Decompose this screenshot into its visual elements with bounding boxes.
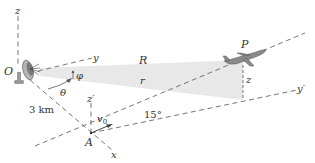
y-axis-label: y — [92, 52, 99, 63]
y-prime-label: y′ — [296, 83, 306, 94]
velocity-label: v0 — [97, 113, 107, 126]
plane-label: P — [240, 38, 249, 51]
y-prime-axis — [91, 90, 297, 133]
point-a — [90, 132, 92, 134]
distance-label: 3 km — [29, 104, 55, 115]
z-axis-label: z — [14, 5, 21, 16]
airplane-icon — [223, 50, 266, 66]
radar-tracking-diagram: z y x y′ z′ v0 A 15° θ φ 3 km R r z P — [0, 0, 315, 163]
z-prime-label: z′ — [86, 93, 95, 104]
phi-label: φ — [76, 70, 83, 81]
slant-range-label: R — [138, 54, 147, 67]
origin-label: O — [4, 65, 13, 78]
climb-angle-label: 15° — [144, 109, 162, 120]
theta-arc — [48, 80, 70, 89]
theta-label: θ — [60, 87, 66, 98]
altitude-label: z — [245, 74, 252, 85]
x-axis-label: x — [111, 149, 117, 160]
point-a-label: A — [84, 136, 93, 149]
